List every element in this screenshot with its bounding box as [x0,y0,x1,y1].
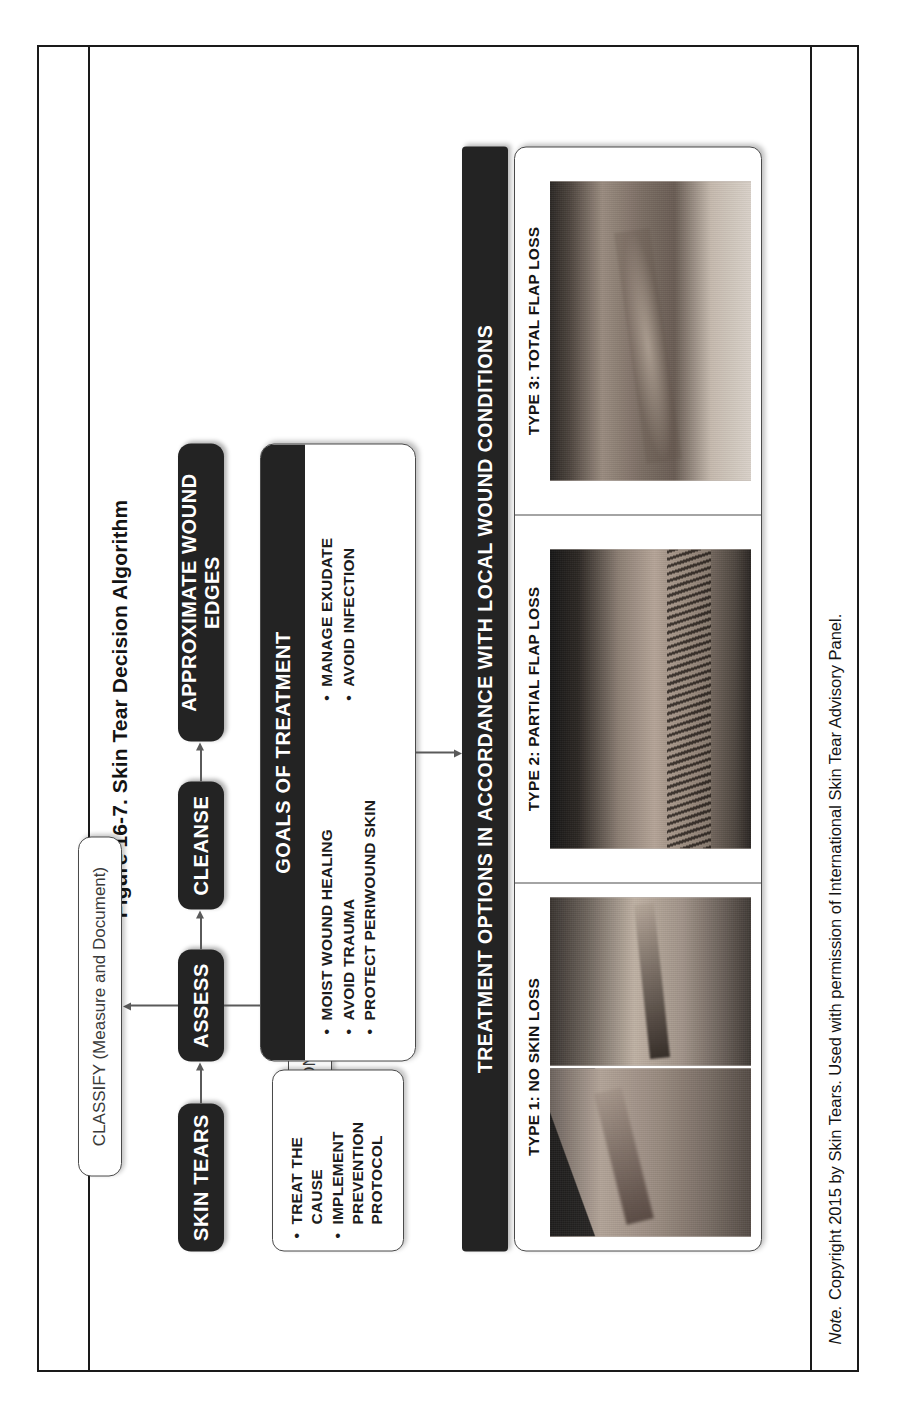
arrow-cleanse-to-approximate-head [196,742,204,750]
arrow-assess-to-classify-head [123,1002,131,1010]
bullet-icon: • [317,1028,337,1034]
goal-item-label: PROTECT PERIWOUND SKIN [361,799,378,1020]
cause-item-label: TREAT THE CAUSE [288,1136,325,1224]
goal-item: • MOIST WOUND HEALING [317,718,337,1034]
node-approximate-wound-edges[interactable]: APPROXIMATE WOUND EDGES [178,443,224,741]
arrow-start-to-assess [200,1069,202,1103]
bullet-icon: • [328,1232,348,1238]
goals-header-label: GOALS OF TREATMENT [272,631,295,874]
type-3-label: TYPE 3: TOTAL FLAP LOSS [525,226,543,434]
goal-item: • AVOID TRAUMA [339,718,359,1034]
note-text: Copyright 2015 by Skin Tears. Used with … [826,613,845,1299]
cause-item-label: IMPLEMENT PREVENTION [329,1121,366,1224]
wound-photo-type1-a [550,1068,751,1236]
goal-item-label: AVOID INFECTION [340,547,357,686]
wound-photo-type1-b [550,897,751,1065]
node-assess-label: ASSESS [190,963,213,1048]
arrow-goals-to-treatment [416,751,456,753]
figure-note: Note. Copyright 2015 by Skin Tears. Used… [812,47,858,1370]
note-rotation-stage: Note. Copyright 2015 by Skin Tears. Used… [812,47,858,1370]
node-skin-tears-label: SKIN TEARS [190,1113,213,1240]
goals-of-treatment-panel[interactable]: GOALS OF TREATMENT • MOIST WOUND HEALING… [260,443,416,1061]
figure-rotation-stage: Figure 16-7. Skin Tear Decision Algorith… [90,46,810,1371]
node-approximate-wound-edges-label: APPROXIMATE WOUND EDGES [178,443,224,741]
bullet-icon: • [317,695,337,701]
cause-item: • TREAT THE CAUSE [287,1082,326,1238]
treatment-options-body: TYPE 1: NO SKIN LOSS TYPE 2: PARTIAL FLA… [514,146,762,1251]
type-cell-1[interactable]: TYPE 1: NO SKIN LOSS [515,883,761,1250]
node-assess[interactable]: ASSESS [178,949,224,1061]
goal-item: • AVOID INFECTION [339,470,359,700]
bullet-icon: • [287,1232,307,1238]
treatment-options-header: TREATMENT OPTIONS IN ACCORDANCE WITH LOC… [462,146,508,1251]
bullet-icon: • [339,695,359,701]
node-cleanse-label: CLEANSE [190,795,213,895]
wound-photo-type3 [550,181,751,479]
arrow-cleanse-to-approximate [200,749,202,781]
bullet-icon: • [339,1028,359,1034]
treat-the-cause-panel[interactable]: • TREAT THE CAUSE • IMPLEMENT PREVENTION… [272,1069,404,1251]
goals-column-left: • MOIST WOUND HEALING • AVOID TRAUMA • P… [317,718,405,1034]
type-cell-3[interactable]: TYPE 3: TOTAL FLAP LOSS [515,147,761,515]
note-label: Note. [826,1305,845,1344]
type-cell-2[interactable]: TYPE 2: PARTIAL FLAP LOSS [515,515,761,883]
node-classify-label: CLASSIFY (Measure and Document) [90,866,110,1145]
cause-item: • IMPLEMENT PREVENTION PROTOCOL [328,1082,387,1238]
goals-header: GOALS OF TREATMENT [261,444,305,1060]
node-skin-tears[interactable]: SKIN TEARS [178,1103,224,1251]
goal-item-label: MANAGE EXUDATE [318,537,335,686]
arrow-assess-to-cleanse-head [196,910,204,918]
type-2-label: TYPE 2: PARTIAL FLAP LOSS [525,586,543,811]
type-2-photo-row [550,523,751,874]
cause-item-continuation: PROTOCOL [367,1082,387,1224]
type-1-label: TYPE 1: NO SKIN LOSS [525,978,543,1156]
arrow-goals-to-treatment-head [454,749,462,757]
goal-item: • MANAGE EXUDATE [317,470,337,700]
goals-body: • MOIST WOUND HEALING • AVOID TRAUMA • P… [305,444,415,1060]
node-cleanse[interactable]: CLEANSE [178,781,224,909]
goal-item-label: MOIST WOUND HEALING [318,828,335,1020]
arrow-assess-to-cleanse [200,917,202,949]
goal-item-label: AVOID TRAUMA [340,898,357,1020]
arrow-assess-to-classify [130,1004,178,1006]
node-classify[interactable]: CLASSIFY (Measure and Document) [78,836,122,1176]
type-1-photo-row [550,891,751,1242]
figure-canvas: Figure 16-7. Skin Tear Decision Algorith… [90,46,810,1371]
treatment-options-header-label: TREATMENT OPTIONS IN ACCORDANCE WITH LOC… [474,324,497,1072]
bullet-icon: • [360,1028,380,1034]
goal-item: • PROTECT PERIWOUND SKIN [360,718,380,1034]
wound-photo-type2 [550,549,751,847]
arrow-start-to-assess-head [196,1062,204,1070]
goals-column-right: • MANAGE EXUDATE • AVOID INFECTION [317,470,405,718]
type-3-photo-row [550,155,751,506]
treatment-options-panel[interactable]: TREATMENT OPTIONS IN ACCORDANCE WITH LOC… [462,146,762,1251]
